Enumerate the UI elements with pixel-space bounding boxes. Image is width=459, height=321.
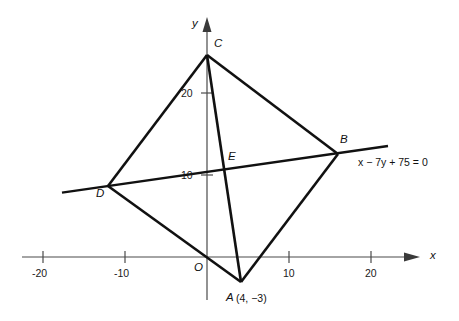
origin-label: O [194, 262, 203, 274]
line-equation-label: x − 7y + 75 = 0 [358, 157, 428, 168]
x-tick-label-neg10: -10 [114, 268, 129, 279]
segment-DC [108, 55, 207, 186]
point-coord-A: (4, −3) [236, 293, 267, 304]
point-label-C: C [214, 38, 222, 50]
y-tick-label-20: 20 [181, 88, 193, 99]
point-label-A: A [226, 292, 234, 304]
x-tick-label-20: 20 [365, 268, 377, 279]
point-label-B: B [340, 134, 348, 146]
y-axis-arrow-icon [203, 17, 212, 32]
coordinate-geometry-figure: x y O -20 -10 10 20 10 20 C B D E A (4, … [0, 0, 459, 321]
point-label-D: D [96, 188, 104, 200]
x-axis-label: x [430, 250, 436, 262]
y-axis-label: y [192, 18, 198, 30]
x-axis-arrow-icon [404, 253, 420, 262]
segment-CB [207, 55, 338, 154]
x-tick-label-neg20: -20 [32, 268, 47, 279]
y-tick-label-10: 10 [181, 170, 193, 181]
x-tick-label-10: 10 [283, 268, 295, 279]
point-label-E: E [228, 151, 236, 163]
